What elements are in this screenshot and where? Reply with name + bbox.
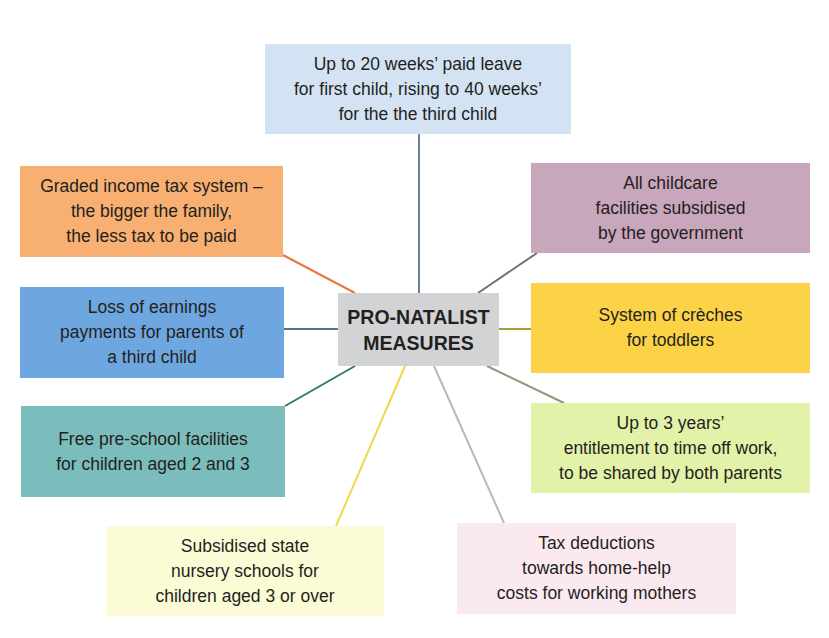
node-label: Tax deductions towards home-help costs f…: [497, 531, 696, 606]
node-childcare-subsidy: All childcare facilities subsidised by t…: [531, 163, 810, 253]
node-label: Loss of earnings payments for parents of…: [60, 295, 244, 370]
node-label: Subsidised state nursery schools for chi…: [156, 534, 335, 609]
node-label: System of crèches for toddlers: [599, 303, 743, 353]
node-label: Up to 3 years’ entitlement to time off w…: [559, 411, 782, 486]
node-tax-deductions: Tax deductions towards home-help costs f…: [457, 523, 736, 614]
node-graded-tax: Graded income tax system – the bigger th…: [20, 166, 283, 257]
node-paid-leave: Up to 20 weeks’ paid leave for first chi…: [265, 44, 571, 134]
node-label: Graded income tax system – the bigger th…: [40, 174, 263, 249]
node-nursery-schools: Subsidised state nursery schools for chi…: [106, 526, 384, 616]
center-node-pro-natalist-measures: PRO-NATALIST MEASURES: [338, 293, 499, 366]
node-label: Free pre-school facilities for children …: [56, 427, 250, 477]
connector-graded-tax: [283, 255, 355, 293]
node-loss-of-earnings: Loss of earnings payments for parents of…: [20, 287, 284, 378]
node-creches: System of crèches for toddlers: [531, 283, 810, 373]
connector-tax-deductions: [434, 366, 504, 523]
node-label: Up to 20 weeks’ paid leave for first chi…: [294, 52, 542, 127]
connector-childcare-subsidy: [478, 253, 537, 293]
node-time-off-work: Up to 3 years’ entitlement to time off w…: [531, 403, 810, 493]
connector-nursery-schools: [336, 366, 405, 526]
node-pre-school: Free pre-school facilities for children …: [21, 406, 285, 497]
node-label: All childcare facilities subsidised by t…: [596, 171, 746, 246]
center-node-label: PRO-NATALIST MEASURES: [347, 304, 489, 356]
connector-pre-school: [285, 366, 355, 406]
